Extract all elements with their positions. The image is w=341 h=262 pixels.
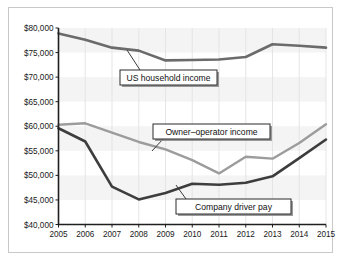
annotation-label-text: US household income <box>126 73 210 83</box>
y-tick-label: $40,000 <box>24 221 54 230</box>
x-tick-label: 2011 <box>210 230 228 239</box>
line-chart: $40,000$45,000$50,000$55,000$60,000$65,0… <box>0 0 341 262</box>
annotation-us-household-income: US household income <box>120 50 219 87</box>
x-tick-label: 2013 <box>263 230 282 239</box>
y-axis-tick-labels: $40,000$45,000$50,000$55,000$60,000$65,0… <box>24 24 59 230</box>
y-tick-label: $45,000 <box>24 196 54 205</box>
y-tick-label: $60,000 <box>24 122 54 131</box>
x-tick-label: 2005 <box>49 230 68 239</box>
x-tick-label: 2007 <box>103 230 122 239</box>
x-tick-label: 2012 <box>237 230 256 239</box>
x-tick-label: 2008 <box>130 230 149 239</box>
y-tick-label: $55,000 <box>24 147 54 156</box>
x-tick-label: 2006 <box>76 230 95 239</box>
y-tick-label: $75,000 <box>24 49 54 58</box>
annotation-label-text: Owner–operator income <box>165 127 257 137</box>
x-tick-label: 2015 <box>317 230 336 239</box>
x-axis-tick-labels: 2005200620072008200920102011201220132014… <box>49 225 335 239</box>
annotation-label-text: Company driver pay <box>195 202 273 212</box>
annotation-leader-line <box>127 50 140 70</box>
y-tick-label: $65,000 <box>24 98 54 107</box>
x-tick-label: 2010 <box>183 230 202 239</box>
y-tick-label: $70,000 <box>24 73 54 82</box>
y-tick-label: $50,000 <box>24 171 54 180</box>
x-tick-label: 2009 <box>156 230 175 239</box>
y-tick-label: $80,000 <box>24 24 54 33</box>
x-tick-label: 2014 <box>290 230 309 239</box>
chart-figure: $40,000$45,000$50,000$55,000$60,000$65,0… <box>0 0 341 262</box>
